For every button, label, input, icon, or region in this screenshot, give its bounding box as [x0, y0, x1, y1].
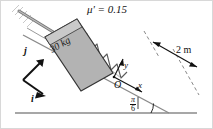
unit-vector-i-label: i	[31, 94, 34, 104]
x-axis-label: x	[138, 81, 142, 90]
wall-hatching	[12, 5, 35, 27]
unit-vector-arrows	[23, 59, 46, 99]
incline-angle-label: π 6	[130, 96, 136, 113]
origin-label: O	[114, 80, 121, 90]
angle-denominator: 6	[130, 105, 136, 113]
diagram-canvas	[1, 1, 213, 129]
y-axis-label: y	[124, 61, 128, 70]
unit-vector-j-label: j	[24, 46, 27, 56]
physics-figure: μ' = 0.15 30 kg 2 m O x y i j π 6	[0, 0, 213, 129]
angle-arc	[138, 97, 154, 113]
distance-label: 2 m	[176, 45, 191, 55]
block-30kg	[45, 19, 113, 91]
friction-coefficient-label: μ' = 0.15	[87, 4, 127, 15]
